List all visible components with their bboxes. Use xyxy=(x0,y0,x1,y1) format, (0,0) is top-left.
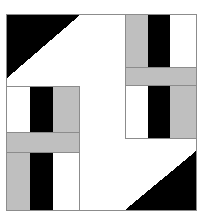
hairline-top-right-block-left xyxy=(125,15,126,138)
hairline-layer xyxy=(0,0,205,217)
hairline-mid-left-block-right xyxy=(79,86,80,210)
hairline-left-band-top xyxy=(7,132,80,133)
hairline-top-right-band-top xyxy=(125,67,197,68)
hairline-mid-left-block-top xyxy=(7,86,80,87)
artwork-canvas xyxy=(0,0,205,217)
hairline-top-right-band-bottom xyxy=(125,85,197,86)
hairline-left-band-bottom xyxy=(7,152,80,153)
hairline-mid-right-block-bottom xyxy=(125,138,197,139)
